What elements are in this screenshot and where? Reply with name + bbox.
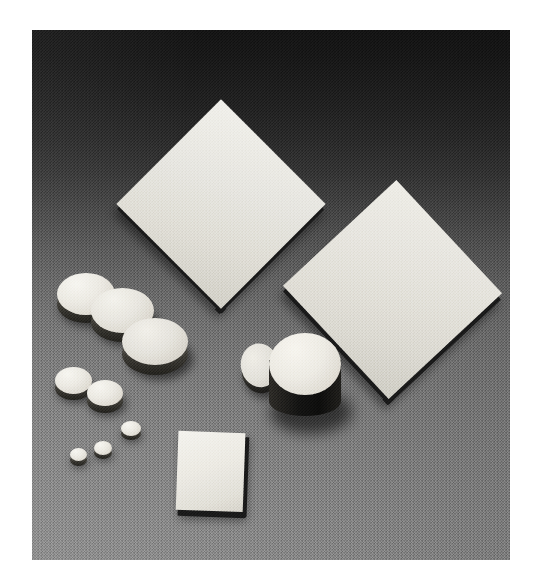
plate-top-face xyxy=(176,431,246,512)
disc-top-face xyxy=(122,318,188,365)
disc-top-face xyxy=(121,421,141,436)
specimen-disc-small-middle xyxy=(93,441,117,463)
specimen-cylinder-tall xyxy=(264,332,364,448)
disc-top-face xyxy=(70,448,87,461)
specimen-plate-small-lower-center xyxy=(176,431,249,517)
specimen-disc-large-front xyxy=(121,318,197,382)
photograph xyxy=(32,30,510,560)
specimen-disc-medium-right xyxy=(86,380,132,418)
disc-top-face xyxy=(94,441,112,455)
cylinder-top-face xyxy=(269,333,341,395)
specimen-disc-small-upper xyxy=(120,421,146,445)
screenshot-root xyxy=(0,0,533,584)
disc-top-face xyxy=(87,380,123,406)
specimen-disc-small-left xyxy=(69,448,93,470)
